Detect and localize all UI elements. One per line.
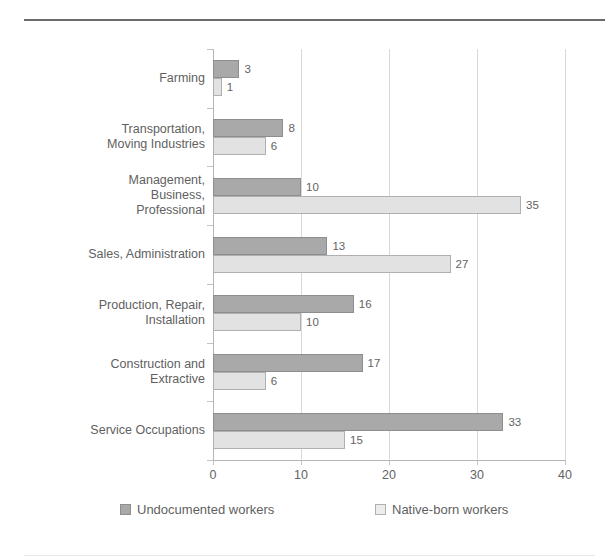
bar-light [213,137,266,155]
bar-light [213,78,222,96]
x-tick-label-10: 10 [294,468,308,482]
bar-dark [213,354,363,372]
category-label: Construction and Extractive [15,357,205,387]
bar-value-label: 16 [359,295,372,313]
legend-label: Native-born workers [392,502,508,517]
x-axis-tick-40 [565,460,566,465]
y-axis-tick [207,343,213,344]
bar-light [213,431,345,449]
x-axis-tick-10 [301,460,302,465]
bar-value-label: 6 [271,137,277,155]
bar-value-label: 15 [350,431,363,449]
bar-light [213,255,451,273]
bar-dark [213,119,283,137]
gridline-30 [477,49,478,460]
legend-label: Undocumented workers [137,502,274,517]
bottom-divider [24,555,595,556]
grouped-bar-chart: Farming31Transportation, Moving Industri… [0,30,605,535]
category-label: Farming [15,71,205,86]
bar-value-label: 13 [332,237,345,255]
bar-dark [213,178,301,196]
category-label: Sales, Administration [15,247,205,262]
bar-value-label: 6 [271,372,277,390]
bar-dark [213,237,327,255]
chart-legend: Undocumented workersNative-born workers [0,496,605,526]
x-tick-label-20: 20 [382,468,396,482]
category-label: Production, Repair, Installation [15,298,205,328]
bar-value-label: 10 [306,178,319,196]
bar-dark [213,413,503,431]
legend-item[interactable]: Native-born workers [375,502,508,517]
y-axis-tick [207,108,213,109]
bar-value-label: 8 [288,119,294,137]
x-axis-tick-20 [389,460,390,465]
top-divider [24,19,605,21]
legend-item[interactable]: Undocumented workers [120,502,274,517]
bar-value-label: 35 [526,196,539,214]
bar-value-label: 10 [306,313,319,331]
x-tick-label-40: 40 [558,468,572,482]
bar-value-label: 1 [227,78,233,96]
y-axis-tick [207,166,213,167]
bar-dark [213,60,239,78]
bar-value-label: 33 [508,413,521,431]
bar-value-label: 3 [244,60,250,78]
bar-dark [213,295,354,313]
legend-swatch-icon [375,504,386,515]
bar-light [213,372,266,390]
bar-light [213,313,301,331]
category-label: Management, Business, Professional [15,173,205,218]
category-label: Transportation, Moving Industries [15,122,205,152]
x-axis-tick-0 [213,460,214,465]
bar-light [213,196,521,214]
chart-page: Farming31Transportation, Moving Industri… [0,0,605,560]
x-axis-tick-30 [477,460,478,465]
bar-value-label: 17 [368,354,381,372]
x-tick-label-30: 30 [470,468,484,482]
y-axis-tick [207,49,213,50]
legend-swatch-icon [120,504,131,515]
y-axis-tick [207,225,213,226]
gridline-40 [565,49,566,460]
bar-value-label: 27 [456,255,469,273]
y-axis-tick [207,401,213,402]
x-tick-label-0: 0 [210,468,217,482]
y-axis-tick [207,284,213,285]
category-label: Service Occupations [15,423,205,438]
